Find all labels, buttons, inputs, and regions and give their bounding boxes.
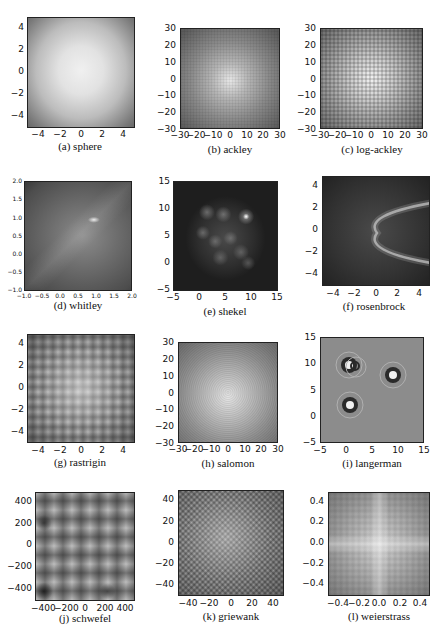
xtick: 15 xyxy=(267,292,287,302)
ytick: 30 xyxy=(290,23,316,33)
heatmap-sphere xyxy=(27,17,135,128)
xtick: 10 xyxy=(388,445,408,455)
xtick: 4 xyxy=(113,129,133,139)
ytick: 10 xyxy=(296,358,316,368)
xtick: 4 xyxy=(409,288,429,298)
ytick: −0.5 xyxy=(2,268,22,275)
xtick: −40 xyxy=(177,598,199,608)
heatmap-langerman xyxy=(320,337,424,443)
ytick: −20 xyxy=(148,421,174,431)
ytick: 5 xyxy=(296,385,316,395)
xtick: 2 xyxy=(387,288,407,298)
ytick: 40 xyxy=(150,494,174,504)
xtick: 2.0 xyxy=(122,292,142,299)
caption-ackley: (b) ackley xyxy=(170,143,290,155)
ytick: 1.5 xyxy=(2,195,22,202)
heatmap-log-ackley xyxy=(320,28,423,129)
caption-griewank: (k) griewank xyxy=(171,610,291,622)
ytick: −4 xyxy=(6,426,24,436)
ytick: 0 xyxy=(148,388,174,398)
ytick: 0 xyxy=(300,224,318,234)
caption-whitley: (d) whitley xyxy=(18,299,138,311)
ytick: −40 xyxy=(150,579,174,589)
xtick: 5 xyxy=(215,292,235,302)
ytick: 15 xyxy=(150,176,170,186)
ytick: 400 xyxy=(2,496,32,506)
xtick: 0 xyxy=(336,445,356,455)
ytick: 0 xyxy=(2,539,32,549)
langerman-spots xyxy=(321,338,424,443)
ytick: 20 xyxy=(150,40,176,50)
heatmap-whitley xyxy=(24,181,132,291)
ytick: 20 xyxy=(148,354,174,364)
ytick: 0 xyxy=(290,74,316,84)
ytick: 0 xyxy=(150,537,174,547)
ytick: −4 xyxy=(300,268,318,278)
ytick: 10 xyxy=(290,57,316,67)
xtick: 30 xyxy=(268,444,288,454)
caption-log-ackley: (c) log-ackley xyxy=(312,143,432,155)
ytick: −4 xyxy=(6,110,24,120)
ytick: 5 xyxy=(150,230,170,240)
spot-4 xyxy=(337,392,363,418)
heatmap-shekel xyxy=(173,181,278,291)
ytick: 0 xyxy=(150,257,170,267)
ytick: 0 xyxy=(6,66,24,76)
ytick: 30 xyxy=(150,23,176,33)
ytick: 2 xyxy=(6,44,24,54)
heatmap-rastrigin xyxy=(27,334,135,443)
xtick: 30 xyxy=(270,130,290,140)
xtick: 1.0 xyxy=(86,292,106,299)
xtick: −4 xyxy=(28,129,48,139)
heatmap-griewank xyxy=(178,490,284,596)
ytick: −2 xyxy=(6,404,24,414)
caption-weierstrass: (l) weierstrass xyxy=(319,610,439,622)
xtick: −4 xyxy=(28,445,48,455)
ytick: 1.0 xyxy=(2,214,22,221)
xtick: −2 xyxy=(50,129,70,139)
xtick: −2 xyxy=(50,445,70,455)
ytick: 10 xyxy=(150,203,170,213)
xtick: 0 xyxy=(71,445,91,455)
ytick: −20 xyxy=(150,558,174,568)
ytick: 20 xyxy=(150,516,174,526)
heatmap-rosenbrock xyxy=(322,176,430,286)
xtick: 30 xyxy=(412,130,432,140)
xtick: −2 xyxy=(344,288,364,298)
xtick: −5 xyxy=(310,445,330,455)
caption-rastrigin: (g) rastrigin xyxy=(20,456,140,468)
xtick: 0.4 xyxy=(408,598,432,608)
ytick: −10 xyxy=(290,90,316,100)
ytick: 0.0 xyxy=(298,537,324,547)
ytick: 4 xyxy=(6,22,24,32)
ytick: 4 xyxy=(300,180,318,190)
ytick: −0.4 xyxy=(298,578,324,588)
xtick: −20 xyxy=(198,598,220,608)
xtick: −5 xyxy=(163,292,183,302)
spot-3 xyxy=(380,362,406,388)
ytick: 20 xyxy=(290,40,316,50)
xtick: −4 xyxy=(323,288,343,298)
parabola-curve xyxy=(323,177,430,286)
ytick: 10 xyxy=(148,371,174,381)
caption-shekel: (e) shekel xyxy=(165,305,285,317)
ytick: −200 xyxy=(2,561,32,571)
ytick: 0.5 xyxy=(2,232,22,239)
ytick: 200 xyxy=(2,518,32,528)
xtick: 0 xyxy=(220,598,242,608)
ytick: 4 xyxy=(6,338,24,348)
xtick: 0 xyxy=(189,292,209,302)
ytick: 0.4 xyxy=(298,496,324,506)
xtick: 10 xyxy=(241,292,261,302)
ytick: 0 xyxy=(6,382,24,392)
heatmap-ackley xyxy=(180,28,280,129)
ytick: −10 xyxy=(150,90,176,100)
xtick: −1.0 xyxy=(14,292,34,299)
ytick: −2 xyxy=(6,88,24,98)
xtick: 2 xyxy=(92,129,112,139)
ytick: −10 xyxy=(148,404,174,414)
ytick: 2 xyxy=(6,360,24,370)
ytick: −2 xyxy=(300,246,318,256)
xtick: 0.0 xyxy=(50,292,70,299)
ytick: 2 xyxy=(300,202,318,212)
